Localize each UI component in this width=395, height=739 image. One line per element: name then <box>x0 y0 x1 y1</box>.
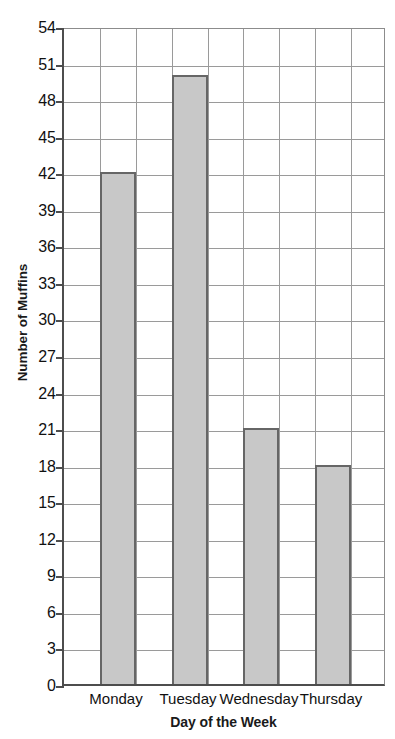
y-axis-tick-mark <box>56 467 64 469</box>
gridline-horizontal <box>64 139 384 140</box>
y-axis-tick-label: 42 <box>0 166 56 182</box>
y-axis-tick-mark <box>56 101 64 103</box>
y-axis-tick-label: 12 <box>0 532 56 548</box>
y-axis-tick-label: 24 <box>0 386 56 402</box>
y-axis-tick-mark <box>56 138 64 140</box>
y-axis-tick-mark <box>56 576 64 578</box>
y-axis-tick-mark <box>56 284 64 286</box>
y-axis-tick-label: 39 <box>0 203 56 219</box>
gridline-vertical <box>136 29 137 684</box>
y-axis-tick-mark <box>56 540 64 542</box>
y-axis-tick-label: 36 <box>0 239 56 255</box>
y-axis-tick-label: 21 <box>0 422 56 438</box>
y-axis-tick-mark <box>56 686 64 688</box>
y-axis-tick-label: 51 <box>0 57 56 73</box>
y-axis-tick-mark <box>56 28 64 30</box>
y-axis-tick-mark <box>56 174 64 176</box>
y-axis-tick-mark <box>56 613 64 615</box>
x-axis-tick-label: Wednesday <box>220 690 299 708</box>
y-axis-tick-mark <box>56 247 64 249</box>
y-axis-tick-label: 54 <box>0 20 56 36</box>
y-axis-tick-label: 45 <box>0 130 56 146</box>
y-axis-tick-label: 30 <box>0 312 56 328</box>
bar-thursday <box>315 465 351 684</box>
y-axis-tick-label: 18 <box>0 459 56 475</box>
gridline-vertical <box>279 29 280 684</box>
bar-wednesday <box>243 428 279 684</box>
y-axis-tick-mark <box>56 357 64 359</box>
x-axis-tick-label: Monday <box>89 690 142 708</box>
y-axis-tick-labels: 0369121518212427303336394245485154 <box>0 0 56 739</box>
y-axis-tick-mark <box>56 503 64 505</box>
gridline-horizontal <box>64 66 384 67</box>
y-axis-tick-label: 27 <box>0 349 56 365</box>
y-axis-tick-label: 9 <box>0 568 56 584</box>
y-axis-tick-mark <box>56 65 64 67</box>
y-axis-tick-label: 33 <box>0 276 56 292</box>
gridline-vertical <box>351 29 352 684</box>
bar-chart: Number of Muffins 0369121518212427303336… <box>0 0 395 739</box>
x-axis-tick-labels: MondayTuesdayWednesdayThursday <box>62 690 385 714</box>
bar-tuesday <box>172 75 208 684</box>
bar-monday <box>100 172 136 684</box>
x-axis-tick-label: Tuesday <box>160 690 217 708</box>
y-axis-tick-label: 6 <box>0 605 56 621</box>
y-axis-tick-mark <box>56 649 64 651</box>
x-axis-tick-label: Thursday <box>300 690 363 708</box>
x-axis-title: Day of the Week <box>62 714 385 730</box>
y-axis-tick-label: 3 <box>0 641 56 657</box>
y-axis-tick-mark <box>56 430 64 432</box>
y-axis-tick-mark <box>56 394 64 396</box>
y-axis-tick-label: 48 <box>0 93 56 109</box>
y-axis-tick-mark <box>56 320 64 322</box>
gridline-horizontal <box>64 102 384 103</box>
plot-area <box>62 28 385 686</box>
y-axis-tick-label: 0 <box>0 678 56 694</box>
y-axis-tick-label: 15 <box>0 495 56 511</box>
gridline-vertical <box>208 29 209 684</box>
y-axis-tick-mark <box>56 211 64 213</box>
